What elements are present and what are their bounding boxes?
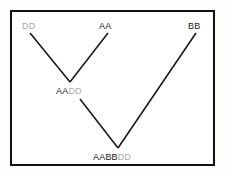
edge-dd-to-aadd (30, 33, 70, 82)
node-label-hybrid-aadd-gray: DD (68, 86, 81, 96)
figure-canvas: DD AA BB AADD AABBDD (0, 0, 231, 176)
node-label-parent-aa: AA (99, 21, 111, 32)
edge-aadd-to-aabbdd (80, 99, 118, 148)
node-label-parent-dd-gray: DD (22, 21, 35, 31)
node-label-parent-bb: BB (188, 21, 200, 32)
edge-bb-to-aabbdd (118, 33, 196, 148)
node-label-parent-aa-dark: AA (99, 21, 111, 31)
node-label-hybrid-aadd: AADD (56, 86, 82, 97)
node-label-parent-bb-dark: BB (188, 21, 200, 31)
node-label-hybrid-aabbdd-dark: AABB (93, 152, 118, 162)
edge-aa-to-aadd (70, 33, 108, 82)
node-label-hybrid-aadd-dark: AA (56, 86, 68, 96)
node-label-parent-dd: DD (22, 21, 35, 32)
node-label-hybrid-aabbdd: AABBDD (93, 152, 131, 163)
node-label-hybrid-aabbdd-gray: DD (118, 152, 131, 162)
